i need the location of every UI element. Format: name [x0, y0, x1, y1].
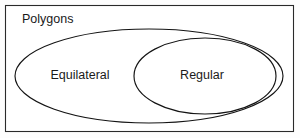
set-label-equilateral: Equilateral	[50, 68, 109, 82]
euler-diagram-svg: Polygons Equilateral Regular	[0, 0, 300, 138]
universe-label-polygons: Polygons	[22, 12, 73, 26]
set-label-regular: Regular	[180, 68, 224, 82]
euler-diagram-canvas: Polygons Equilateral Regular	[0, 0, 300, 138]
